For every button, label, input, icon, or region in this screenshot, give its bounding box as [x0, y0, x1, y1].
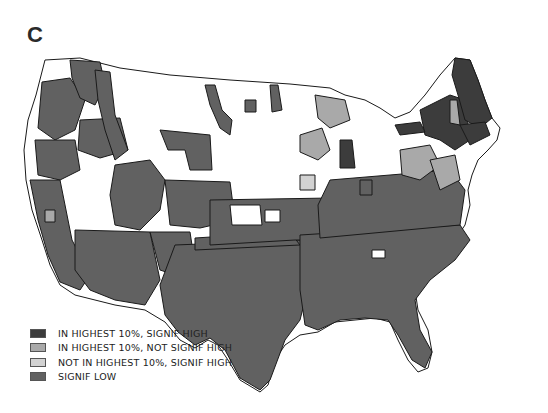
legend-swatch — [30, 329, 46, 338]
legend-item-signif-low: SIGNIF LOW — [30, 370, 232, 385]
legend: IN HIGHEST 10%, SIGNIF HIGH IN HIGHEST 1… — [30, 326, 232, 384]
legend-label: NOT IN HIGHEST 10%, SIGNIF HIGH — [58, 357, 232, 368]
legend-swatch — [30, 372, 46, 381]
legend-item-highest-signif-high: IN HIGHEST 10%, SIGNIF HIGH — [30, 326, 232, 341]
legend-item-not-highest-signif-high: NOT IN HIGHEST 10%, SIGNIF HIGH — [30, 355, 232, 370]
legend-item-highest-not-signif-high: IN HIGHEST 10%, NOT SIGNIF HIGH — [30, 341, 232, 356]
legend-swatch — [30, 358, 46, 367]
legend-swatch — [30, 343, 46, 352]
legend-label: SIGNIF LOW — [58, 371, 116, 382]
legend-label: IN HIGHEST 10%, SIGNIF HIGH — [58, 328, 208, 339]
legend-label: IN HIGHEST 10%, NOT SIGNIF HIGH — [58, 342, 232, 353]
